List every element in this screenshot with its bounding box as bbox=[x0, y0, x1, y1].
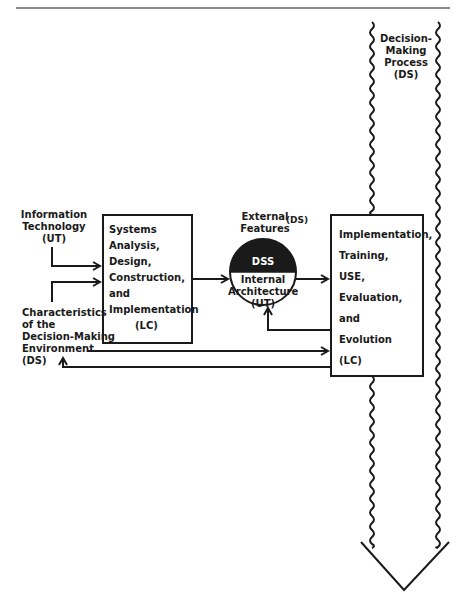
dss-label: DSS bbox=[243, 256, 283, 267]
characteristics-label: Characteristics of the Decision-Making E… bbox=[22, 307, 115, 367]
implementation-box-text: Implementation, Training, USE, Evaluatio… bbox=[339, 224, 432, 371]
decision-process-label: Decision- Making Process (DS) bbox=[376, 33, 436, 81]
external-features-label: External Features bbox=[240, 211, 290, 235]
arrow-char-to-systems bbox=[52, 282, 100, 302]
arrowhead-down bbox=[361, 542, 449, 590]
external-features-tag: (DS) bbox=[286, 214, 308, 226]
wavy-line-right bbox=[436, 22, 440, 548]
internal-architecture-label: Internal Architecture (UT) bbox=[228, 274, 298, 310]
arrow-it-to-systems bbox=[52, 247, 100, 266]
systems-box-text: Systems Analysis, Design, Construction, … bbox=[109, 222, 199, 334]
arrow-implementation-to-dss bbox=[268, 308, 331, 330]
information-technology-label: Information Technology (UT) bbox=[14, 209, 94, 245]
